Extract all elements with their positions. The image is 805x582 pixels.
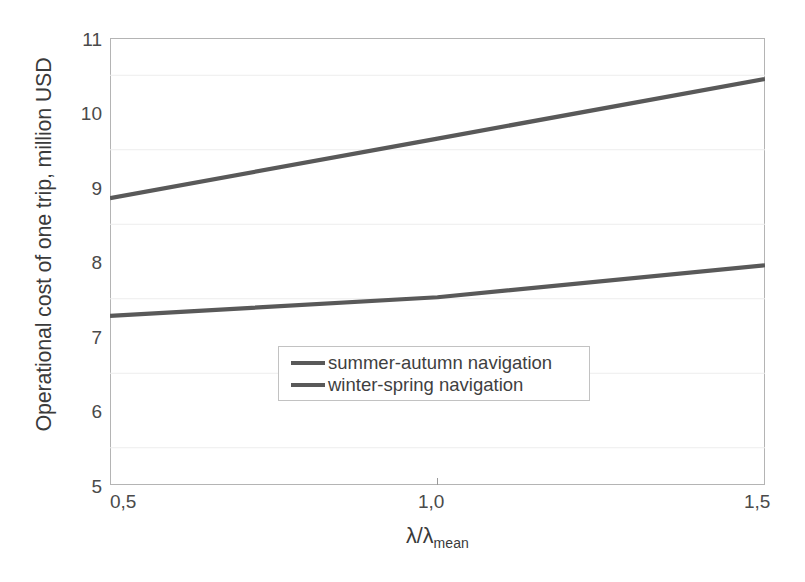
legend-line-swatch-icon — [291, 383, 325, 387]
x-axis-title-main: λ/λ — [406, 524, 433, 548]
y-tick-label: 10 — [60, 104, 102, 123]
legend-item-label: summer-autumn navigation — [328, 354, 552, 373]
series-winter-spring-line — [110, 79, 765, 198]
y-tick-label: 6 — [60, 402, 102, 421]
y-tick-label: 5 — [60, 477, 102, 496]
x-tick-label: 1,5 — [744, 492, 770, 511]
y-tick-label: 9 — [60, 179, 102, 198]
legend: summer-autumn navigation winter-spring n… — [278, 346, 590, 401]
legend-item-label: winter-spring navigation — [328, 376, 523, 395]
x-tick-label: 0,5 — [110, 492, 136, 511]
legend-item-summer-autumn: summer-autumn navigation — [291, 352, 589, 374]
legend-item-winter-spring: winter-spring navigation — [291, 374, 589, 396]
x-axis-title-subscript: mean — [434, 535, 469, 551]
y-axis-tick-labels: 11 10 9 8 7 6 5 — [52, 0, 102, 582]
legend-line-swatch-icon — [291, 361, 325, 365]
y-tick-label: 11 — [60, 30, 102, 49]
x-tick-label: 1,0 — [418, 492, 444, 511]
y-tick-label: 7 — [60, 328, 102, 347]
chart-container: Operational cost of one trip, million US… — [0, 0, 805, 582]
x-axis-title: λ/λmean — [110, 524, 765, 551]
y-tick-label: 8 — [60, 253, 102, 272]
plot-svg — [110, 38, 765, 485]
series-summer-autumn-line — [110, 265, 765, 316]
